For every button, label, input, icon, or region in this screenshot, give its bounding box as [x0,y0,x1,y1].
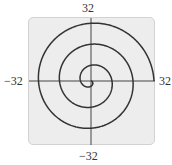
x-min-label: −32 [4,75,23,87]
y-min-label: −32 [79,150,98,162]
x-max-label: 32 [159,75,171,87]
spiral-curve [38,23,154,128]
y-max-label: 32 [82,2,94,14]
spiral-plot [0,0,172,165]
